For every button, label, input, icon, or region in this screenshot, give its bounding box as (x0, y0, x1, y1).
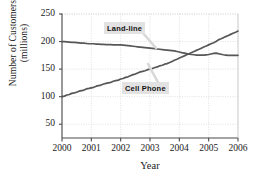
y-tick-label: 150 (29, 63, 55, 73)
x-tick-label: 2000 (46, 143, 78, 153)
chart-axes (62, 14, 238, 139)
annotation-leader-lines (142, 32, 160, 86)
y-tick-label: 200 (29, 36, 55, 46)
y-tick-label: 50 (29, 118, 55, 128)
gridlines (62, 14, 238, 138)
y-axis-title: Number of Customers (millions) (8, 0, 30, 108)
y-axis-title-line1: Number of Customers (8, 0, 18, 86)
series-annotation-cell-phone: Cell Phone (122, 82, 169, 94)
series-annotation-land-line: Land-line (104, 22, 145, 34)
y-tick-label: 100 (29, 91, 55, 101)
x-tick-label: 2001 (75, 143, 107, 153)
x-tick-label: 2006 (222, 143, 254, 153)
x-tick-label: 2002 (105, 143, 137, 153)
x-tick-label: 2005 (193, 143, 225, 153)
x-axis-title: Year (60, 160, 240, 171)
x-tick-label: 2003 (134, 143, 166, 153)
y-tick-label: 250 (29, 8, 55, 18)
x-tick-label: 2004 (163, 143, 195, 153)
tick-marks (59, 14, 238, 142)
